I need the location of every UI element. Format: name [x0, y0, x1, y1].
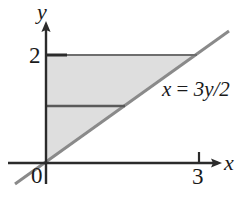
y-axis-label: y: [37, 1, 47, 23]
equation-label: x = 3y/2: [162, 79, 230, 100]
x-axis-label: x: [224, 152, 234, 174]
equation-rhs: 3y/2: [194, 77, 230, 101]
equation-operator: =: [171, 77, 193, 101]
equation-lhs: x: [162, 77, 171, 101]
origin-label: 0: [31, 164, 43, 187]
y-tick-label-2: 2: [29, 44, 41, 67]
x-tick-label-3: 3: [192, 165, 204, 188]
